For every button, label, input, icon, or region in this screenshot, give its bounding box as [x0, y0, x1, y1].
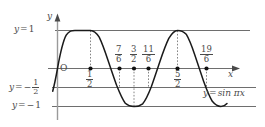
y-axis-label: y	[47, 12, 52, 21]
fraction-3-2: 3 2	[130, 45, 137, 63]
label-y-equals-neg-half-eq: =	[15, 83, 23, 92]
fraction-3-2-denominator: 2	[130, 55, 137, 64]
fraction-1-2-denominator: 2	[86, 80, 93, 89]
fraction-11-6-denominator: 6	[145, 55, 152, 64]
tick-label-19-6: 19 6	[200, 45, 213, 63]
fraction-19-6-denominator: 6	[203, 55, 210, 64]
fraction-one-half-denominator: 2	[32, 88, 39, 96]
fraction-7-6-denominator: 6	[115, 55, 122, 64]
x-axis-arrowhead	[232, 66, 240, 72]
sine-graph-figure: y x O y = 1 y = − 1 2 y = − 1	[0, 0, 265, 127]
tick-label-1-2: 1 2	[86, 70, 93, 88]
fraction-19-6: 19 6	[200, 45, 213, 63]
label-y-equals-1-eq: =	[20, 25, 28, 34]
curve-equation-eq: =	[209, 89, 217, 98]
tick-label-11-6: 11 6	[142, 45, 155, 63]
dot-7-6	[117, 66, 121, 70]
fraction-7-6: 7 6	[115, 45, 122, 63]
label-y-equals-neg-1-value: 1	[35, 101, 41, 110]
dot-11-6	[146, 66, 150, 70]
label-y-equals-neg-1-sign: −	[27, 101, 35, 110]
label-y-equals-neg-1-lhs: y	[12, 101, 17, 110]
x-axis-label: x	[228, 70, 233, 79]
curve-equation-lhs: y	[203, 89, 208, 98]
label-y-equals-1-lhs: y	[14, 25, 19, 34]
label-y-equals-1: y = 1	[14, 25, 34, 34]
label-y-equals-neg-half-sign: −	[24, 83, 32, 92]
fraction-5-2: 5 2	[174, 70, 181, 88]
fraction-one-half: 1 2	[32, 79, 39, 96]
tick-label-3-2: 3 2	[130, 45, 137, 63]
dot-19-6	[204, 66, 208, 70]
y-axis-arrowhead	[55, 14, 61, 22]
fraction-11-6: 11 6	[142, 45, 155, 63]
label-y-equals-neg-half: y = − 1 2	[9, 79, 39, 96]
fraction-5-2-denominator: 2	[174, 80, 181, 89]
dot-3-2	[132, 66, 136, 70]
label-y-equals-1-value: 1	[29, 25, 35, 34]
origin-label: O	[60, 64, 67, 73]
label-y-equals-neg-1-eq: =	[18, 101, 26, 110]
label-y-equals-neg-half-lhs: y	[9, 83, 14, 92]
curve-equation-label: y = sin πx	[203, 89, 245, 98]
tick-label-7-6: 7 6	[115, 45, 122, 63]
curve-equation-rhs: sin πx	[218, 89, 245, 98]
label-y-equals-neg-1: y = − 1	[12, 101, 41, 110]
tick-label-5-2: 5 2	[174, 70, 181, 88]
fraction-1-2: 1 2	[86, 70, 93, 88]
